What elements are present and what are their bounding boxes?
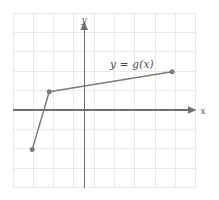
function-curve xyxy=(30,69,175,152)
left-endpoint-dot xyxy=(30,147,35,152)
function-label: y = g(x) xyxy=(109,58,154,70)
x-axis xyxy=(13,106,197,114)
graph-figure: x y y = g(x) xyxy=(0,0,219,200)
y-axis xyxy=(80,22,88,189)
vertex-dot xyxy=(47,89,52,94)
x-axis-label: x xyxy=(201,106,206,116)
coordinate-plane: x y y = g(x) xyxy=(0,0,219,200)
vertical-gridlines xyxy=(13,13,196,188)
right-endpoint-dot xyxy=(170,69,175,74)
y-axis-label: y xyxy=(81,15,88,25)
horizontal-gridlines xyxy=(13,13,196,188)
